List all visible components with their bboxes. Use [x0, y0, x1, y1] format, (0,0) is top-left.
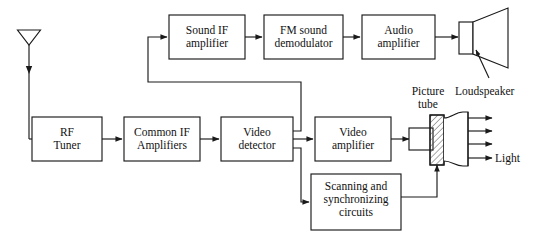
label-picture-tube: Picture tube [400, 85, 456, 111]
block-audio-amplifier [362, 15, 435, 59]
picture-tube-icon [409, 112, 468, 166]
tv-receiver-block-diagram [0, 0, 549, 233]
block-sound-if-amplifier [169, 15, 245, 59]
label-light: Light [495, 152, 539, 165]
block-common-if-amplifiers [124, 117, 200, 161]
light-rays-icon [468, 118, 492, 158]
loudspeaker-icon [459, 8, 508, 78]
block-rf-tuner [32, 117, 102, 161]
label-loudspeaker: Loudspeaker [455, 85, 545, 98]
block-video-detector [221, 117, 293, 161]
block-fm-sound-demodulator [264, 15, 343, 59]
link-scanning-to-picturetube [401, 165, 437, 197]
block-scanning-sync [311, 174, 401, 230]
link-videodetector-to-scanning [293, 148, 309, 202]
block-video-amplifier [315, 117, 391, 161]
